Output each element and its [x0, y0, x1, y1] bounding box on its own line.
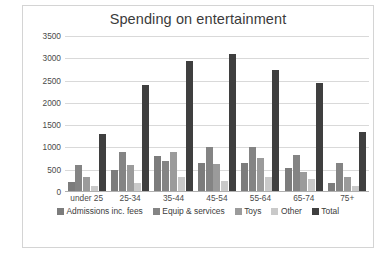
legend-swatch-icon [57, 208, 64, 215]
legend-item[interactable]: Admissions inc. fees [57, 206, 143, 216]
bar [272, 70, 279, 192]
bar [170, 152, 177, 192]
y-axis-tick-label: 500 [47, 165, 61, 175]
bar [75, 165, 82, 192]
bar [308, 179, 315, 192]
legend-item[interactable]: Other [271, 206, 301, 216]
bar [213, 164, 220, 192]
bar [359, 132, 366, 192]
bar [178, 177, 185, 192]
y-axis-tick-label: 0 [56, 187, 61, 197]
chart-title: Spending on entertainment [23, 11, 373, 27]
x-axis-tick-label: 25-34 [108, 193, 151, 203]
x-axis-tick-label: 35-44 [152, 193, 195, 203]
x-axis-tick-label: 65-74 [282, 193, 325, 203]
bar-group [152, 36, 195, 192]
legend-item[interactable]: Total [312, 206, 339, 216]
legend-swatch-icon [312, 208, 319, 215]
bar-group [195, 36, 238, 192]
x-axis-tick-label: 75+ [326, 193, 369, 203]
bar [186, 61, 193, 192]
bar [142, 85, 149, 192]
x-axis-tick-label: under 25 [65, 193, 108, 203]
bar [249, 147, 256, 192]
plot-area [65, 36, 369, 192]
chart-card: Spending on entertainment 35003000250020… [22, 5, 374, 248]
legend-swatch-icon [235, 208, 242, 215]
bar [99, 134, 106, 192]
bar [265, 177, 272, 192]
legend-label: Admissions inc. fees [66, 206, 142, 216]
bar [285, 168, 292, 192]
bar [154, 156, 161, 192]
bars-layer [65, 36, 369, 192]
bar [241, 163, 248, 192]
bar [162, 161, 169, 192]
bar-group [326, 36, 369, 192]
y-axis: 3500300025002000150010005000 [37, 36, 63, 192]
legend-label: Total [321, 206, 339, 216]
bar-group [108, 36, 151, 192]
x-axis-tick-label: 55-64 [239, 193, 282, 203]
bar [293, 155, 300, 192]
y-axis-tick-label: 1000 [43, 142, 61, 152]
bar [316, 83, 323, 192]
bar-group [65, 36, 108, 192]
bar [300, 172, 307, 192]
bar [83, 177, 90, 192]
bar [344, 177, 351, 192]
bar [127, 165, 134, 192]
legend-label: Toys [244, 206, 261, 216]
y-axis-tick-label: 1500 [43, 120, 61, 130]
bar [229, 54, 236, 192]
legend-label: Other [281, 206, 302, 216]
bar [257, 158, 264, 192]
x-axis-line [65, 191, 369, 192]
y-axis-tick-label: 3000 [43, 53, 61, 63]
chart-legend: Admissions inc. feesEquip & servicesToys… [23, 206, 373, 216]
y-axis-tick-label: 2500 [43, 76, 61, 86]
legend-label: Equip & services [162, 206, 224, 216]
y-axis-tick-label: 3500 [43, 31, 61, 41]
bar-group [282, 36, 325, 192]
legend-swatch-icon [271, 208, 278, 215]
bar [336, 163, 343, 192]
bar [198, 163, 205, 192]
plot-wrapper: 3500300025002000150010005000 under 2525-… [37, 36, 369, 202]
bar [119, 152, 126, 192]
x-axis: under 2525-3435-4445-5455-6465-7475+ [65, 193, 369, 203]
x-axis-tick-label: 45-54 [195, 193, 238, 203]
bar-group [239, 36, 282, 192]
bar [206, 147, 213, 192]
legend-swatch-icon [153, 208, 160, 215]
legend-item[interactable]: Equip & services [153, 206, 225, 216]
legend-item[interactable]: Toys [235, 206, 262, 216]
bar [111, 170, 118, 192]
y-axis-tick-label: 2000 [43, 98, 61, 108]
